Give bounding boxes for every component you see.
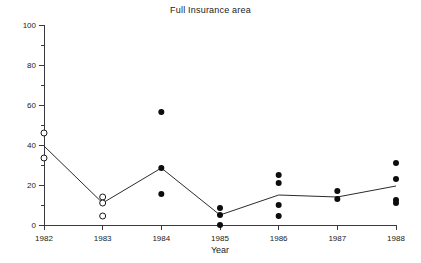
y-axis: 020406080100 bbox=[23, 21, 44, 230]
data-point-filled bbox=[276, 213, 282, 219]
data-point-filled bbox=[158, 109, 164, 115]
data-point-filled bbox=[276, 180, 282, 186]
x-tick-label: 1985 bbox=[211, 234, 229, 243]
x-tick-label: 1986 bbox=[270, 234, 288, 243]
y-tick-label: 100 bbox=[23, 21, 37, 30]
data-point-open bbox=[100, 194, 106, 200]
data-point-filled bbox=[393, 200, 399, 206]
x-axis-title: Year bbox=[211, 245, 229, 255]
mean-trend-line bbox=[44, 146, 396, 215]
chart-container: Full Insurance area 020406080100 1982198… bbox=[0, 0, 421, 263]
data-point-filled bbox=[276, 172, 282, 178]
x-tick-label: 1983 bbox=[94, 234, 112, 243]
data-point-filled bbox=[217, 212, 223, 218]
data-point-filled bbox=[158, 165, 164, 171]
data-point-open bbox=[100, 200, 106, 206]
y-tick-label: 20 bbox=[27, 181, 36, 190]
y-tick-label: 40 bbox=[27, 141, 36, 150]
data-point-filled bbox=[393, 176, 399, 182]
data-point-filled bbox=[217, 205, 223, 211]
mean-trend-polyline bbox=[44, 146, 396, 215]
data-point-open bbox=[41, 130, 47, 136]
data-points bbox=[41, 109, 399, 228]
data-point-open bbox=[100, 213, 106, 219]
x-tick-label: 1982 bbox=[35, 234, 53, 243]
data-point-filled bbox=[276, 202, 282, 208]
scatter-plot-canvas: 020406080100 198219831984198519861987198… bbox=[0, 0, 421, 263]
data-point-filled bbox=[334, 188, 340, 194]
y-tick-label: 0 bbox=[32, 221, 37, 230]
data-point-filled bbox=[334, 196, 340, 202]
y-tick-label: 80 bbox=[27, 61, 36, 70]
y-tick-label: 60 bbox=[27, 101, 36, 110]
data-point-filled bbox=[393, 160, 399, 166]
x-tick-label: 1988 bbox=[387, 234, 405, 243]
data-point-open bbox=[41, 155, 47, 161]
x-tick-label: 1987 bbox=[328, 234, 346, 243]
x-tick-label: 1984 bbox=[152, 234, 170, 243]
data-point-filled bbox=[158, 191, 164, 197]
data-point-filled bbox=[217, 222, 223, 228]
